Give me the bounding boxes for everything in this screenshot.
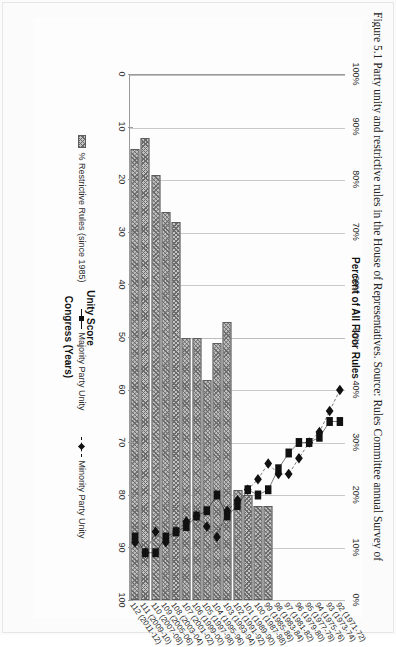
primary-axis-tick-mark <box>128 442 133 443</box>
secondary-axis-ticks: 0%10%20%30%40%50%60%70%80%90%100% <box>347 74 361 600</box>
primary-axis-tick-mark <box>128 126 133 127</box>
data-point-marker[interactable] <box>255 490 261 499</box>
category-axis-tick-label: 100 (1987-88) <box>252 600 288 646</box>
legend-item-restrictive-rules[interactable]: % Restrictive Rules (since 1985) <box>77 135 87 282</box>
category-axis-tick-label: 102 (1991-92) <box>231 600 267 646</box>
category-axis-tick-label: 105 (1997-98) <box>200 600 236 646</box>
category-axis-tick-label: 106 (1999-00) <box>190 600 226 646</box>
secondary-axis-tick-label: 60% <box>351 275 361 293</box>
line-swatch-diamond-icon <box>78 436 87 456</box>
data-point-marker[interactable] <box>336 384 344 395</box>
secondary-axis-tick-label: 0% <box>351 593 361 606</box>
primary-axis-tick-mark <box>128 231 133 232</box>
data-point-marker[interactable] <box>337 417 343 426</box>
line-swatch-square-icon <box>78 308 87 328</box>
secondary-axis-tick-label: 70% <box>351 222 361 240</box>
category-axis-tick-label: 107 (2001-02) <box>180 600 216 646</box>
data-point-marker[interactable] <box>285 468 293 479</box>
primary-axis-tick-mark <box>128 389 133 390</box>
bar-swatch-icon <box>78 135 86 148</box>
secondary-axis-tick-label: 100% <box>351 62 361 85</box>
category-axis-tick-label: 97 (1981-82) <box>283 600 317 643</box>
data-point-marker[interactable] <box>265 485 271 494</box>
data-point-marker[interactable] <box>152 526 160 537</box>
primary-axis-tick-label: 20 <box>117 174 127 184</box>
secondary-axis-tick-label: 50% <box>351 327 361 345</box>
primary-axis-tick-label: 50 <box>117 331 127 341</box>
primary-axis-tick-label: 60 <box>117 384 127 394</box>
secondary-axis-tick-label: 30% <box>351 433 361 451</box>
category-axis-tick-label: 96 (1979-80) <box>293 600 327 643</box>
legend-item-minority-party-unity[interactable]: Minority Party Unity <box>77 436 87 538</box>
primary-axis-tick-mark <box>128 600 133 601</box>
secondary-axis-tick-label: 10% <box>351 538 361 556</box>
plot-area <box>129 74 345 600</box>
minority-unity-line <box>135 390 340 553</box>
data-point-marker[interactable] <box>203 521 211 532</box>
data-point-marker[interactable] <box>214 490 220 499</box>
primary-axis-tick-label: 90 <box>117 542 127 552</box>
secondary-axis-tick-label: 40% <box>351 380 361 398</box>
category-axis-tick-label: 98 (1983-84) <box>272 600 306 643</box>
category-axis-tick-label: 109 (2005-06) <box>159 600 195 646</box>
category-axis-tick-label: 108 (2003-04) <box>169 600 205 646</box>
primary-axis-tick-mark <box>128 284 133 285</box>
data-point-marker[interactable] <box>264 458 272 469</box>
data-point-marker[interactable] <box>213 531 221 542</box>
primary-axis-tick-label: 80 <box>117 489 127 499</box>
category-axis-tick-label: 94 (1975-76) <box>313 600 347 643</box>
primary-axis-tick-mark <box>128 337 133 338</box>
data-point-marker[interactable] <box>285 448 291 457</box>
category-axis-tick-label: 95 (1977-78) <box>303 600 337 643</box>
primary-axis-tick-label: 40 <box>117 279 127 289</box>
category-axis-tick-label: 103 (1993-94) <box>221 600 257 646</box>
primary-axis-tick-mark <box>128 179 133 180</box>
primary-axis-tick-label: 10 <box>117 121 127 131</box>
data-point-marker[interactable] <box>152 548 158 557</box>
primary-axis-tick-label: 100 <box>117 592 127 607</box>
category-axis-tick-label: 104 (1995-96) <box>211 600 247 646</box>
chart-rotation-wrapper: Percent of All Floor Rules 0%10%20%30%40… <box>33 18 363 618</box>
category-axis-tick-label: 110 (2007-08) <box>149 600 185 646</box>
primary-axis-tick-mark <box>128 74 133 75</box>
primary-axis-tick-label: 70 <box>117 437 127 447</box>
legend-item-majority-party-unity[interactable]: Majority Party Unity <box>77 308 87 410</box>
primary-axis-tick-mark <box>128 547 133 548</box>
combo-chart: Percent of All Floor Rules 0%10%20%30%40… <box>33 18 363 618</box>
category-axis-tick-label: 101 (1989-90) <box>241 600 277 646</box>
primary-axis-ticks: 0102030405060708090100 <box>105 74 127 600</box>
category-axis-tick-label: 99 (1985-86) <box>262 600 296 643</box>
figure-caption: Figure 5.1 Party unity and restrictive r… <box>372 12 384 624</box>
legend-label-majority-party-unity: Majority Party Unity <box>77 332 87 410</box>
data-point-marker[interactable] <box>296 438 302 447</box>
secondary-axis-tick-label: 90% <box>351 117 361 135</box>
primary-axis-tick-mark <box>128 494 133 495</box>
secondary-axis-tick-label: 20% <box>351 485 361 503</box>
data-point-marker[interactable] <box>326 417 332 426</box>
category-axis-tick-label: 111 (2009-10) <box>139 600 175 645</box>
legend-label-restrictive-rules: % Restrictive Rules (since 1985) <box>77 152 87 282</box>
primary-axis-tick-label: 0 <box>117 71 127 76</box>
secondary-axis-tick-label: 80% <box>351 170 361 188</box>
primary-axis-tick-label: 30 <box>117 226 127 236</box>
data-point-marker[interactable] <box>204 506 210 515</box>
data-point-marker[interactable] <box>326 405 334 416</box>
line-series <box>130 75 345 600</box>
chart-legend: % Restrictive Rules (since 1985) Majorit… <box>47 74 87 600</box>
legend-label-minority-party-unity: Minority Party Unity <box>77 460 87 538</box>
category-axis-tick-label: 112 (2011-12) <box>128 600 164 645</box>
